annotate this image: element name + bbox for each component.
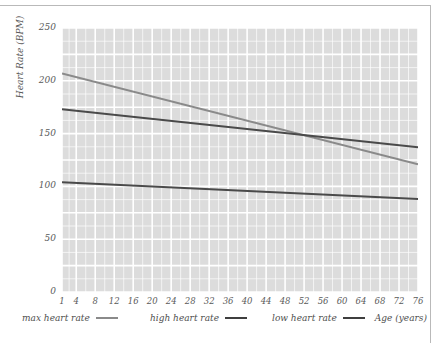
legend-color-swatch — [225, 317, 247, 319]
x-tick-label: 72 — [394, 296, 405, 306]
x-tick-label: 36 — [223, 296, 234, 306]
x-axis-title: Age (years) — [375, 313, 427, 323]
series-line — [62, 182, 418, 199]
x-tick-label: 56 — [318, 296, 329, 306]
legend-item-label: max heart rate — [22, 313, 90, 323]
chart-legend: max heart ratehigh heart ratelow heart r… — [22, 313, 422, 329]
legend-color-swatch — [96, 317, 118, 319]
series-lines — [62, 28, 418, 292]
plot-area — [62, 28, 418, 292]
x-tick-label: 76 — [413, 296, 424, 306]
x-tick-label: 1 — [59, 296, 64, 306]
x-tick-label: 8 — [93, 296, 98, 306]
x-tick-label: 28 — [185, 296, 196, 306]
legend-item: high heart rate — [150, 313, 247, 323]
y-tick-label: 100 — [39, 180, 56, 190]
right-divider-rule — [430, 5, 431, 343]
legend-item-label: high heart rate — [150, 313, 219, 323]
legend-color-swatch — [343, 317, 365, 319]
chart-figure: Heart Rate (BPM) 050100150200250 1481216… — [0, 0, 439, 343]
x-tick-label: 32 — [204, 296, 215, 306]
x-axis-tick-labels: 1481216202428323640444852566064687276 — [62, 296, 418, 310]
y-axis-tick-labels: 050100150200250 — [18, 0, 56, 343]
x-tick-label: 4 — [74, 296, 79, 306]
y-tick-label: 50 — [45, 233, 56, 243]
x-tick-label: 16 — [128, 296, 139, 306]
y-tick-label: 150 — [39, 128, 56, 138]
x-tick-label: 60 — [337, 296, 348, 306]
x-tick-label: 40 — [242, 296, 253, 306]
x-tick-label: 48 — [280, 296, 291, 306]
x-tick-label: 52 — [299, 296, 310, 306]
y-tick-label: 250 — [39, 22, 56, 32]
x-tick-label: 44 — [261, 296, 272, 306]
top-divider-rule — [0, 5, 431, 6]
legend-item-label: low heart rate — [272, 313, 337, 323]
y-tick-label: 0 — [50, 286, 56, 296]
x-tick-label: 12 — [109, 296, 120, 306]
series-line — [62, 73, 418, 164]
series-line — [62, 109, 418, 147]
x-tick-label: 64 — [356, 296, 367, 306]
legend-item: max heart rate — [22, 313, 118, 323]
x-tick-label: 20 — [147, 296, 158, 306]
x-tick-label: 68 — [375, 296, 386, 306]
legend-item: low heart rate — [272, 313, 365, 323]
y-tick-label: 200 — [39, 75, 56, 85]
x-tick-label: 24 — [166, 296, 177, 306]
